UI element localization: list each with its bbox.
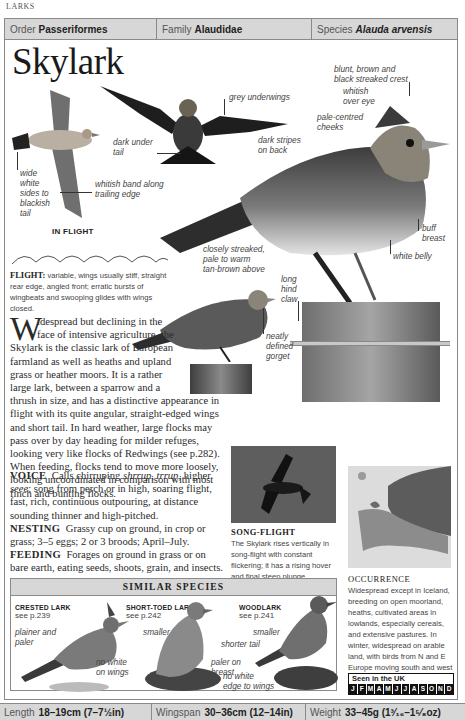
note-smaller-shorttoed: smaller — [143, 627, 170, 637]
note-whitish-over-eye: whitish over eye — [343, 86, 375, 106]
similar-species-panel: SIMILAR SPECIES CRESTED LARK see p.239 p… — [10, 578, 337, 691]
note-buff-breast: buff breast — [422, 223, 445, 243]
month-may: M — [384, 684, 392, 694]
leader-line — [390, 240, 391, 254]
month-jan: J — [349, 684, 357, 694]
family-label: Family — [162, 24, 191, 35]
voice-label: VOICE — [10, 470, 47, 481]
occurrence-title: OCCURRENCE — [348, 574, 410, 584]
family-value: Alaudidae — [194, 24, 242, 35]
feeding-label: FEEDING — [10, 549, 61, 560]
note-wide-white-sides: wide white sides to blackish tail — [20, 168, 50, 218]
length-cell: Length18–19cm (7–7½in) — [0, 704, 152, 720]
flight-label: FLIGHT: — [10, 270, 45, 280]
taxonomy-family: FamilyAlaudidae — [157, 19, 312, 39]
page-title: Skylark — [12, 40, 124, 83]
weight-value: 33–45g (1³⁄₁₆–1⁵⁄₈oz) — [345, 707, 441, 718]
note-white-belly: white belly — [393, 251, 432, 261]
month-jun: J — [393, 684, 401, 694]
month-mar: M — [367, 684, 375, 694]
note-no-white-edge: no white edge to wings — [223, 671, 274, 691]
wingspan-value: 30–36cm (12–14in) — [204, 707, 292, 718]
note-pale-cheeks: pale-centred cheeks — [317, 112, 363, 132]
song-flight-bird-icon — [231, 446, 336, 523]
flight-path-icon — [10, 250, 170, 268]
length-label: Length — [4, 707, 35, 718]
month-apr: A — [375, 684, 383, 694]
song-flight-photo — [231, 446, 336, 523]
leader-line — [60, 192, 92, 193]
seen-label: Seen in the UK — [349, 674, 453, 684]
nesting-section: NESTING Grassy cup on ground, in crop or… — [10, 522, 225, 548]
occurrence-text: Widespread except in Iceland, breeding o… — [348, 585, 453, 684]
note-whitish-band: whitish band along trailing edge — [95, 179, 164, 199]
feeding-section: FEEDING Forages on ground in grass or on… — [10, 548, 225, 574]
taxonomy-order: OrderPasseriformes — [5, 19, 157, 39]
seen-in-uk-calendar: Seen in the UK J F M A M J J A S O N D — [348, 673, 454, 695]
song-flight-text: The Skylark rises vertically in song-fli… — [231, 538, 339, 582]
wingspan-cell: Wingspan30–36cm (12–14in) — [152, 704, 306, 720]
note-plainer-paler: plainer and paler — [15, 627, 56, 647]
occurrence-map — [348, 466, 451, 568]
note-shorter-tail: shorter tail — [221, 639, 260, 649]
weight-cell: Weight33–45g (1³⁄₁₆–1⁵⁄₈oz) — [306, 704, 465, 720]
leader-line — [17, 152, 18, 170]
note-dark-stripes: dark stripes on back — [258, 135, 301, 155]
note-crest: blunt, brown and black streaked crest — [334, 64, 408, 84]
section-label: LARKS — [6, 2, 35, 11]
flight-description: FLIGHT: variable, wings usually stiff, s… — [10, 270, 170, 314]
note-dark-under-tail: dark under tail — [113, 137, 153, 157]
wingspan-label: Wingspan — [156, 707, 200, 718]
taxonomy-bar: OrderPasseriformes FamilyAlaudidae Speci… — [4, 18, 458, 40]
month-dec: D — [445, 684, 453, 694]
order-value: Passeriformes — [39, 24, 108, 35]
short-toed-lark-illustration — [141, 599, 221, 691]
month-sep: S — [419, 684, 427, 694]
nesting-label: NESTING — [10, 523, 61, 534]
note-no-white-wings: no white on wings — [96, 657, 129, 677]
note-hind-claw: long hind claw — [281, 274, 298, 304]
length-value: 18–19cm (7–7½in) — [39, 707, 125, 718]
month-oct: O — [428, 684, 436, 694]
leader-line — [409, 82, 410, 96]
taxonomy-species: SpeciesAlauda arvensis — [312, 19, 457, 39]
order-label: Order — [10, 24, 36, 35]
voice-section: VOICE Calls chirruping shrrup, trrup, hi… — [10, 469, 225, 522]
month-aug: A — [410, 684, 418, 694]
note-smaller-woodlark: smaller — [253, 627, 280, 637]
leader-line — [418, 219, 419, 231]
song-flight-title: SONG-FLIGHT — [231, 527, 295, 537]
species-label: Species — [317, 24, 353, 35]
month-feb: F — [358, 684, 366, 694]
in-flight-caption: IN FLIGHT — [52, 227, 94, 236]
species-value: Alauda arvensis — [356, 24, 433, 35]
month-jul: J — [402, 684, 410, 694]
measurements-bar: Length18–19cm (7–7½in) Wingspan30–36cm (… — [0, 703, 465, 720]
months-row: J F M A M J J A S O N D — [349, 684, 453, 694]
weight-label: Weight — [310, 707, 341, 718]
note-closely-streaked: closely streaked, pale to warm tan-brown… — [203, 244, 265, 274]
month-nov: N — [437, 684, 445, 694]
